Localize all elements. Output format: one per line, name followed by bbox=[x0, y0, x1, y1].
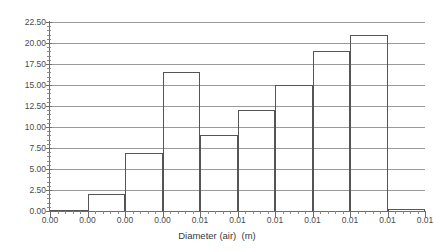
x-axis-minor-tick bbox=[103, 211, 104, 214]
y-axis-minor-tick bbox=[47, 165, 51, 166]
y-axis-tick-mark bbox=[46, 106, 52, 107]
y-axis-tick-label: 20.00 bbox=[2, 39, 46, 48]
y-axis-minor-tick bbox=[47, 194, 51, 195]
y-axis-minor-tick bbox=[47, 123, 51, 124]
histogram-bar bbox=[88, 194, 126, 211]
x-axis-minor-tick bbox=[335, 211, 336, 214]
x-axis-tick-label: 0.01 bbox=[180, 215, 220, 225]
x-axis-minor-tick bbox=[365, 211, 366, 214]
y-axis-tick-mark bbox=[46, 43, 52, 44]
x-axis-minor-tick bbox=[418, 211, 419, 214]
x-axis-minor-tick bbox=[290, 211, 291, 214]
x-axis-minor-tick bbox=[373, 211, 374, 214]
x-axis-minor-tick bbox=[320, 211, 321, 214]
y-axis-minor-tick bbox=[47, 140, 51, 141]
y-axis-minor-tick bbox=[47, 110, 51, 111]
y-axis-minor-tick bbox=[47, 60, 51, 61]
x-axis-tick-label: 0.01 bbox=[330, 215, 370, 225]
y-axis-tick-label: 12.50 bbox=[2, 102, 46, 111]
y-axis-minor-tick bbox=[47, 198, 51, 199]
histogram-bar bbox=[388, 209, 426, 211]
y-axis-tick-mark bbox=[46, 22, 52, 23]
plot-area bbox=[50, 22, 425, 211]
x-axis-title: Diameter (air) (m) bbox=[0, 230, 434, 242]
y-axis-minor-tick bbox=[47, 30, 51, 31]
y-axis-minor-tick bbox=[47, 81, 51, 82]
x-axis-minor-tick bbox=[140, 211, 141, 214]
x-axis-tick-label: 0.01 bbox=[405, 215, 434, 225]
y-axis-minor-tick bbox=[47, 89, 51, 90]
y-axis-minor-tick bbox=[47, 47, 51, 48]
y-axis-minor-tick bbox=[47, 144, 51, 145]
y-axis-minor-tick bbox=[47, 186, 51, 187]
y-axis-minor-tick bbox=[47, 93, 51, 94]
y-axis-minor-tick bbox=[47, 26, 51, 27]
y-axis-tick-mark bbox=[46, 190, 52, 191]
y-axis-minor-tick bbox=[47, 207, 51, 208]
y-axis-minor-tick bbox=[47, 102, 51, 103]
y-axis-tick-label: 10.00 bbox=[2, 123, 46, 132]
x-axis-minor-tick bbox=[170, 211, 171, 214]
histogram-bar bbox=[200, 135, 238, 211]
x-axis-tick-label: 0.00 bbox=[68, 215, 108, 225]
y-axis-minor-tick bbox=[47, 203, 51, 204]
x-axis-minor-tick bbox=[305, 211, 306, 214]
x-axis-minor-tick bbox=[95, 211, 96, 214]
y-axis-minor-tick bbox=[47, 39, 51, 40]
y-axis-minor-tick bbox=[47, 98, 51, 99]
x-axis-minor-tick bbox=[133, 211, 134, 214]
x-axis-minor-tick bbox=[328, 211, 329, 214]
y-axis-minor-tick bbox=[47, 51, 51, 52]
y-axis-minor-tick bbox=[47, 161, 51, 162]
x-axis-minor-tick bbox=[58, 211, 59, 214]
x-axis-minor-tick bbox=[73, 211, 74, 214]
y-axis-minor-tick bbox=[47, 156, 51, 157]
y-axis-minor-tick bbox=[47, 135, 51, 136]
x-axis-minor-tick bbox=[298, 211, 299, 214]
y-axis-minor-tick bbox=[47, 68, 51, 69]
x-axis-minor-tick bbox=[253, 211, 254, 214]
histogram-bar bbox=[275, 85, 313, 211]
x-axis-minor-tick bbox=[403, 211, 404, 214]
x-axis-minor-tick bbox=[283, 211, 284, 214]
y-axis-minor-tick bbox=[47, 131, 51, 132]
x-axis-minor-tick bbox=[395, 211, 396, 214]
x-axis-tick-label: 0.00 bbox=[105, 215, 145, 225]
x-axis-minor-tick bbox=[118, 211, 119, 214]
y-axis-tick-label: 17.50 bbox=[2, 60, 46, 69]
x-axis-minor-tick bbox=[260, 211, 261, 214]
y-axis-minor-tick bbox=[47, 173, 51, 174]
y-axis-tick-mark bbox=[46, 148, 52, 149]
x-axis-minor-tick bbox=[185, 211, 186, 214]
x-axis-minor-tick bbox=[65, 211, 66, 214]
x-axis-minor-tick bbox=[223, 211, 224, 214]
y-axis-tick-label: 5.00 bbox=[2, 165, 46, 174]
x-axis-minor-tick bbox=[155, 211, 156, 214]
gridline bbox=[50, 22, 425, 23]
x-axis-minor-tick bbox=[110, 211, 111, 214]
histogram-bar bbox=[313, 51, 351, 211]
x-axis-minor-tick bbox=[208, 211, 209, 214]
y-axis-tick-label: 15.00 bbox=[2, 81, 46, 90]
histogram-chart: 22.5020.0017.5015.0012.5010.007.505.002.… bbox=[0, 0, 434, 252]
histogram-bar bbox=[50, 210, 88, 211]
y-axis-tick-mark bbox=[46, 127, 52, 128]
histogram-bar bbox=[350, 35, 388, 211]
y-axis-tick-mark bbox=[46, 169, 52, 170]
x-axis-minor-tick bbox=[380, 211, 381, 214]
x-axis-minor-tick bbox=[230, 211, 231, 214]
y-axis-tick-mark bbox=[46, 85, 52, 86]
x-axis-minor-tick bbox=[178, 211, 179, 214]
y-axis-tick-mark bbox=[46, 64, 52, 65]
x-axis-minor-tick bbox=[193, 211, 194, 214]
x-axis-tick-label: 0.01 bbox=[218, 215, 258, 225]
y-axis-minor-tick bbox=[47, 77, 51, 78]
y-axis-minor-tick bbox=[47, 35, 51, 36]
y-axis-minor-tick bbox=[47, 182, 51, 183]
histogram-bar bbox=[125, 153, 163, 211]
y-axis-minor-tick bbox=[47, 114, 51, 115]
x-axis-minor-tick bbox=[148, 211, 149, 214]
y-axis-minor-tick bbox=[47, 72, 51, 73]
x-axis-minor-tick bbox=[358, 211, 359, 214]
x-axis-minor-tick bbox=[343, 211, 344, 214]
